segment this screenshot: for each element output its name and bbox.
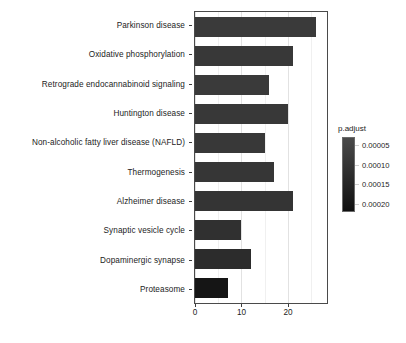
bar[interactable]: [195, 133, 265, 153]
y-tick-mark: [189, 201, 192, 202]
legend-tick-label: 0.00010: [362, 160, 389, 169]
y-axis-label: Thermogenesis: [128, 168, 186, 177]
y-tick-mark: [189, 142, 192, 143]
y-tick-mark: [189, 260, 192, 261]
legend-tick-label: 0.00020: [362, 200, 389, 209]
y-tick-mark: [189, 113, 192, 114]
y-axis-label: Non-alcoholic fatty liver disease (NAFLD…: [32, 138, 185, 147]
bar[interactable]: [195, 104, 288, 124]
bar-row: [195, 70, 327, 99]
y-axis-label-row: Retrograde endocannabinoid signaling: [0, 70, 189, 99]
bar-row: [195, 128, 327, 157]
legend-tick-mark: [355, 184, 359, 185]
y-axis-label-row: Oxidative phosphorylation: [0, 40, 189, 69]
legend-tick-label: 0.00005: [362, 140, 389, 149]
enrichment-bar-chart: Parkinson diseaseOxidative phosphorylati…: [0, 0, 406, 343]
bar-row: [195, 41, 327, 70]
y-axis-label-row: Non-alcoholic fatty liver disease (NAFLD…: [0, 128, 189, 157]
x-tick-mark: [241, 304, 242, 307]
bar[interactable]: [195, 191, 293, 211]
y-tick-mark: [189, 289, 192, 290]
legend-tick-marks: [355, 137, 360, 212]
y-tick-mark: [189, 84, 192, 85]
bar[interactable]: [195, 17, 316, 37]
y-axis-label-row: Synaptic vesicle cycle: [0, 216, 189, 245]
legend-title: p.adjust: [338, 124, 366, 133]
x-tick-label: 0: [193, 308, 198, 317]
y-axis-label-row: Alzheimer disease: [0, 187, 189, 216]
bar[interactable]: [195, 220, 241, 240]
y-axis-label: Huntington disease: [113, 109, 185, 118]
bar[interactable]: [195, 75, 269, 95]
y-axis-label-row: Thermogenesis: [0, 157, 189, 186]
y-axis-label: Parkinson disease: [117, 21, 185, 30]
y-axis-label-row: Huntington disease: [0, 99, 189, 128]
y-axis-label: Dopaminergic synapse: [100, 256, 185, 265]
x-tick-label: 20: [283, 308, 292, 317]
bar-row: [195, 216, 327, 245]
bar[interactable]: [195, 162, 274, 182]
y-axis-label: Alzheimer disease: [117, 197, 185, 206]
x-tick-label: 10: [237, 308, 246, 317]
y-axis-label: Retrograde endocannabinoid signaling: [42, 80, 185, 89]
legend-tick-mark: [355, 204, 359, 205]
y-tick-mark: [189, 54, 192, 55]
bar[interactable]: [195, 249, 251, 269]
y-axis-label-row: Dopaminergic synapse: [0, 245, 189, 274]
bar[interactable]: [195, 278, 228, 298]
legend-tick-mark: [355, 165, 359, 166]
y-tick-mark: [189, 25, 192, 26]
bar-row: [195, 274, 327, 303]
bar-series: [195, 12, 327, 303]
y-axis-label-row: Parkinson disease: [0, 11, 189, 40]
legend-tick-mark: [355, 145, 359, 146]
bar-row: [195, 157, 327, 186]
plot-panel: [194, 11, 328, 304]
legend-gradient-bar: [342, 137, 355, 212]
bar-row: [195, 245, 327, 274]
y-axis-label: Oxidative phosphorylation: [89, 50, 185, 59]
y-axis-category-labels: Parkinson diseaseOxidative phosphorylati…: [0, 11, 189, 304]
bar-row: [195, 12, 327, 41]
legend-tick-label: 0.00015: [362, 180, 389, 189]
bar-row: [195, 187, 327, 216]
x-tick-mark: [288, 304, 289, 307]
y-axis-label-row: Proteasome: [0, 275, 189, 304]
legend-colorbar: p.adjust 0.000050.000100.000150.00020: [336, 124, 406, 220]
x-axis-tick-labels: 01020: [194, 308, 328, 322]
y-axis-label: Proteasome: [140, 285, 185, 294]
y-tick-mark: [189, 172, 192, 173]
y-tick-mark: [189, 230, 192, 231]
bar[interactable]: [195, 46, 293, 66]
bar-row: [195, 99, 327, 128]
x-tick-mark: [195, 304, 196, 307]
y-axis-label: Synaptic vesicle cycle: [104, 226, 185, 235]
